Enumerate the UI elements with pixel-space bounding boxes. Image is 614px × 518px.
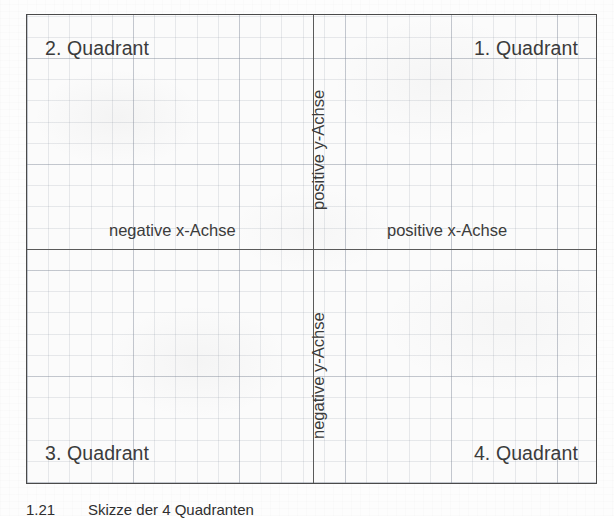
negative-y-axis-label: negative y-Achse [309,312,328,439]
positive-x-axis-label: positive x-Achse [387,221,507,240]
positive-y-axis-label: positive y-Achse [309,90,328,210]
negative-x-axis-label: negative x-Achse [109,221,236,240]
figure-caption-text: Skizze der 4 Quadranten [88,501,254,518]
quadrant-1-label: 1. Quadrant [474,37,578,60]
quadrant-4-label: 4. Quadrant [474,442,578,465]
figure-caption-number: 1.21 [26,501,88,518]
x-axis-line [27,249,597,250]
figure-caption: 1.21Skizze der 4 Quadranten [26,501,586,518]
quadrant-2-label: 2. Quadrant [45,37,149,60]
quadrant-3-label: 3. Quadrant [45,442,149,465]
coordinate-system-figure: 2. Quadrant 1. Quadrant 3. Quadrant 4. Q… [26,14,597,484]
